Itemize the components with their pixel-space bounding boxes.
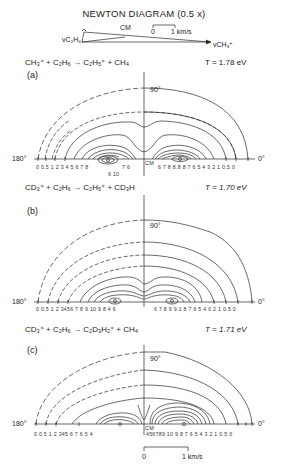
panel-b-label: (b)	[27, 206, 38, 216]
panel-a-left-ticks: 0 0.5 1 2 3 4 5 6 7 8	[36, 164, 88, 170]
panel-b-contours	[34, 195, 255, 307]
panel-a-right-ticks: 6 7 8 8.8 8 7 6 5 4 3 2 1 0.5 0	[158, 164, 235, 170]
panel-c-angle-90: 90°	[150, 355, 161, 362]
panel-a-cm-label: CM	[145, 160, 154, 166]
panel-a-temperature: T = 1.78 eV	[205, 58, 246, 67]
panel-a-left-ticks-lower: 9 10	[108, 171, 119, 177]
newton-scale-zero: 0	[151, 28, 155, 35]
newton-scale-unit: 1 km/s	[171, 28, 192, 35]
panel-c-angle-180: 180°	[12, 420, 26, 427]
panel-b-angle-180: 180°	[12, 298, 26, 305]
panel-a-label: (a)	[27, 70, 38, 80]
panel-c-right-ticks: 456789 10 9 8 7 6 5 4 3 2 1 0.5 0	[146, 431, 232, 437]
scale-bar-zero: 0	[142, 453, 146, 460]
panel-b-reaction: CD₃⁺ + C₂H₆ → C₂H₅⁺ + CD₃H	[25, 183, 135, 192]
panel-a-left-ticks-after: 7 6	[122, 164, 130, 170]
scale-bar-unit: 1 km/s	[182, 453, 203, 460]
panel-a-angle-180: 180°	[12, 155, 26, 162]
panel-b-right-ticks: 6 7 8 9 9.1 8 7 6 5 4 0 2 1 0.5 0	[154, 306, 236, 312]
panel-b-temperature: T = 1.70 eV	[205, 183, 247, 192]
panel-c-label: (c)	[27, 345, 38, 355]
panel-a-angle-90: 90°	[150, 86, 161, 93]
panel-a-reaction: CH₃⁺ + C₂H₆ → C₂H₅⁺ + CH₄	[25, 58, 129, 67]
panel-c-temperature: T = 1.71 eV	[205, 325, 247, 334]
panel-b-angle-90: 90°	[150, 222, 161, 229]
newton-cm-label: CM	[120, 24, 131, 31]
panel-b-left-ticks: 0 0.5 1 2 3456 7 8 9 10 9 8 4 6	[36, 306, 116, 312]
panel-b-angle-0: 0°	[258, 298, 265, 305]
v-c2h6-label: vC₂H₆	[62, 36, 81, 43]
contour-diagram-graphics	[0, 0, 288, 473]
panel-c-angle-0: 0°	[258, 420, 265, 427]
panel-c-reaction: CD₃⁺ + C₂H₆ → C₂D₃H₂⁺ + CH₄	[25, 325, 138, 334]
panel-a-angle-0: 0°	[258, 155, 265, 162]
panel-c-left-ticks: 0 0.5 1 2 345 6 7 6 5 4	[34, 431, 93, 437]
v-ch3-label: vCH₃⁺	[213, 41, 233, 49]
